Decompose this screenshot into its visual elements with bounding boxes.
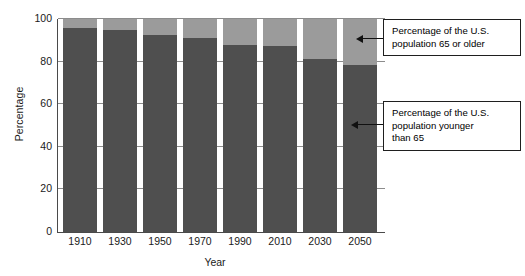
bar-column-1990: 1990 (223, 19, 257, 232)
y-tick-label-80: 80 (40, 55, 52, 67)
bar-segment-younger-1950 (143, 35, 177, 232)
x-axis-title: Year (45, 256, 385, 268)
bar-segment-younger-1970 (183, 38, 217, 232)
bar-segment-younger-2030 (303, 59, 337, 232)
bar-column-2030: 2030 (303, 19, 337, 232)
x-tick-label-2010: 2010 (268, 235, 291, 247)
annotation-younger-line3: than 65 (392, 132, 513, 145)
y-tick-label-20: 20 (40, 182, 52, 194)
annotation-younger-line1: Percentage of the U.S. (392, 107, 513, 120)
annotation-older-line1: Percentage of the U.S. (392, 25, 513, 38)
callout-connector-younger (357, 124, 384, 125)
plot-area: 100 80 60 40 20 0 1910 1930 (57, 19, 385, 233)
bar-column-2050: 2050 (343, 19, 377, 232)
bar-column-1950: 1950 (143, 19, 177, 232)
bar-segment-younger-1910 (63, 28, 97, 232)
bar-segment-older-1950 (143, 19, 177, 35)
bar-column-1910: 1910 (63, 19, 97, 232)
annotation-younger: Percentage of the U.S. population younge… (383, 101, 521, 151)
y-tick-label-40: 40 (40, 140, 52, 152)
bar-segment-younger-2050 (343, 65, 377, 232)
y-tick-label-0: 0 (46, 225, 52, 237)
annotation-younger-line2: population younger (392, 120, 513, 133)
arrow-left-icon-older (356, 35, 363, 43)
y-tick-label-60: 60 (40, 97, 52, 109)
x-tick-label-1910: 1910 (68, 235, 91, 247)
x-tick-label-2050: 2050 (348, 235, 371, 247)
bar-segment-older-1990 (223, 19, 257, 45)
bar-segment-older-2030 (303, 19, 337, 59)
callout-connector-older (361, 38, 384, 39)
x-tick-label-1930: 1930 (108, 235, 131, 247)
arrow-left-icon-younger (351, 121, 358, 129)
bar-segment-younger-1930 (103, 30, 137, 232)
annotation-older: Percentage of the U.S. population 65 or … (383, 19, 521, 56)
x-tick-label-1970: 1970 (188, 235, 211, 247)
stacked-bar-chart: Percentage 100 80 60 40 20 0 1910 (0, 0, 525, 276)
x-tick-label-1950: 1950 (148, 235, 171, 247)
bar-segment-younger-1990 (223, 45, 257, 232)
bar-column-1970: 1970 (183, 19, 217, 232)
x-tick-label-2030: 2030 (308, 235, 331, 247)
x-tick-label-1990: 1990 (228, 235, 251, 247)
y-axis-title: Percentage (13, 59, 25, 169)
annotation-older-line2: population 65 or older (392, 38, 513, 51)
bar-column-2010: 2010 (263, 19, 297, 232)
bar-column-1930: 1930 (103, 19, 137, 232)
y-tick-label-100: 100 (34, 12, 52, 24)
bar-segment-older-1930 (103, 19, 137, 30)
bar-segment-older-1970 (183, 19, 217, 38)
bar-segment-younger-2010 (263, 46, 297, 232)
bar-segment-older-2010 (263, 19, 297, 46)
bar-segment-older-1910 (63, 19, 97, 28)
